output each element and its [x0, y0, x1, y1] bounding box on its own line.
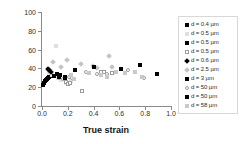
legend-item-label: d = 0.5 µm [191, 47, 219, 56]
chart-legend: d = 0.4 µmd = 0.5 µmd = 0.5 µmd = 0.5 µm… [178, 16, 238, 114]
legend-item-label: d = 0.5 µm [191, 29, 219, 38]
legend-marker-icon [182, 83, 191, 92]
data-point [92, 65, 96, 69]
plot-canvas [42, 12, 171, 106]
data-point [123, 71, 127, 75]
x-axis-tick-label: 0.8 [140, 110, 150, 117]
data-point [114, 70, 118, 74]
data-point [105, 75, 109, 79]
legend-item[interactable]: d = 2.5 µm [182, 65, 235, 74]
data-point [63, 76, 67, 80]
legend-marker-icon [182, 92, 191, 101]
x-axis-tick-label: 0.6 [115, 110, 125, 117]
data-point [64, 57, 70, 63]
legend-item[interactable]: d = 0.5 µm [182, 29, 235, 38]
legend-item[interactable]: d = 0.4 µm [182, 20, 235, 29]
data-point [138, 63, 142, 67]
legend-marker-icon [182, 47, 191, 56]
x-axis-tick-label: 1.0 [166, 110, 176, 117]
data-point [87, 71, 91, 75]
data-point [50, 59, 56, 65]
y-axis-tick [38, 50, 42, 51]
y-axis-tick-label: 80 [28, 27, 36, 34]
data-point [140, 75, 144, 79]
legend-marker-icon [182, 56, 191, 65]
legend-item-label: d = 50 µm [191, 92, 217, 101]
data-point [54, 44, 58, 48]
y-axis-tick-label: 0 [32, 103, 36, 110]
legend-item[interactable]: d = 50 µm [182, 92, 235, 101]
x-axis-tick-label: 0.4 [89, 110, 99, 117]
data-point [59, 64, 65, 70]
data-point [155, 72, 159, 76]
legend-item-label: d = 58 µm [191, 101, 217, 110]
y-axis-tick [38, 87, 42, 88]
data-point [99, 73, 103, 77]
data-point [68, 81, 72, 85]
legend-item-label: d = 0.4 µm [191, 20, 219, 29]
data-point [80, 89, 84, 93]
legend-marker-icon [182, 101, 191, 110]
legend-item[interactable]: d = 58 µm [182, 101, 235, 110]
x-axis-tick-label: 0.2 [63, 110, 73, 117]
data-point [57, 75, 61, 79]
legend-item-label: d = 2.5 µm [191, 65, 219, 74]
legend-marker-icon [182, 29, 191, 38]
x-axis-tick-label: 0.0 [37, 110, 47, 117]
data-point [72, 77, 76, 81]
x-axis-title: True strain [41, 126, 171, 135]
legend-marker-icon [182, 20, 191, 29]
y-axis-tick-label: 100 [24, 9, 36, 16]
legend-item-label: d = 0.5 µm [191, 38, 219, 47]
data-point [106, 53, 112, 59]
legend-marker-icon [182, 65, 191, 74]
legend-item[interactable]: d = 0.5 µm [182, 47, 235, 56]
legend-item[interactable]: d = 3 µm [182, 74, 235, 83]
y-axis-tick-label: 20 [28, 84, 36, 91]
y-axis-tick [38, 12, 42, 13]
legend-item-label: d = 3 µm [191, 74, 214, 83]
legend-marker-icon [182, 74, 191, 83]
plot-area: 0204060801000.00.20.40.60.81.0 [41, 12, 171, 107]
data-point [78, 61, 84, 67]
y-axis-tick-label: 40 [28, 65, 36, 72]
legend-item-label: d = 0.6 µm [191, 56, 219, 65]
y-axis-tick [38, 31, 42, 32]
y-axis-tick [38, 68, 42, 69]
legend-item[interactable]: d = 50 µm [182, 83, 235, 92]
data-point [109, 64, 115, 70]
legend-item[interactable]: d = 0.5 µm [182, 38, 235, 47]
legend-item-label: d = 50 µm [191, 83, 217, 92]
chart-figure: Apparent activation volume V*, b3 020406… [0, 0, 241, 144]
y-axis-tick-label: 60 [28, 46, 36, 53]
data-point [133, 70, 137, 74]
legend-item[interactable]: d = 0.6 µm [182, 56, 235, 65]
data-point [73, 68, 77, 72]
legend-marker-icon [182, 38, 191, 47]
